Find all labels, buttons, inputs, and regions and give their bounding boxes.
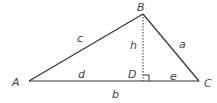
vertex-label-b: B — [137, 2, 145, 13]
side-label-d: d — [78, 69, 85, 80]
side-label-e: e — [170, 71, 177, 82]
side-label-h: h — [130, 40, 137, 51]
side-label-c: c — [77, 33, 83, 44]
side-label-a: a — [179, 39, 186, 50]
vertex-label-c: C — [204, 78, 212, 89]
side-c — [29, 14, 143, 81]
vertex-label-d: D — [128, 69, 136, 80]
side-label-b: b — [112, 89, 119, 100]
vertex-label-a: A — [12, 77, 20, 88]
right-angle-marker — [143, 75, 149, 81]
triangle-diagram — [0, 0, 217, 103]
